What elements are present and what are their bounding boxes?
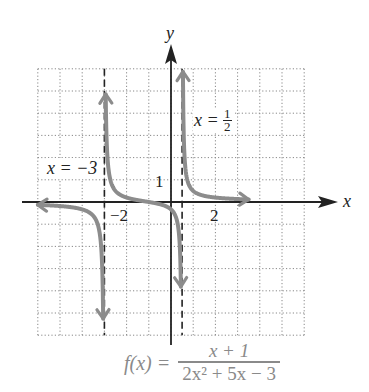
graph-canvas bbox=[0, 0, 369, 392]
fraction-one-half: 1 2 bbox=[223, 108, 232, 133]
asymptote-label-text: x = −3 bbox=[47, 158, 97, 179]
formula-numerator: x + 1 bbox=[205, 341, 253, 361]
asymptote-label-lhs: x = bbox=[194, 110, 219, 131]
y-tick-label-1: 1 bbox=[155, 173, 164, 190]
formula-lhs: f(x) = bbox=[124, 352, 170, 375]
formula-denominator: 2x² + 5x − 3 bbox=[178, 363, 280, 385]
x-axis-label: x bbox=[343, 192, 351, 210]
asymptote-label-x-half: x = 1 2 bbox=[193, 108, 233, 133]
asymptote-label-x-neg3: x = −3 bbox=[46, 158, 98, 179]
x-tick-label-neg2: −2 bbox=[110, 207, 128, 224]
function-formula: f(x) = x + 1 2x² + 5x − 3 bbox=[124, 341, 280, 385]
fraction-denominator: 2 bbox=[224, 121, 231, 133]
axes bbox=[22, 44, 338, 345]
formula-fraction: x + 1 2x² + 5x − 3 bbox=[178, 341, 280, 385]
y-axis-label: y bbox=[166, 24, 174, 42]
x-tick-label-2: 2 bbox=[210, 207, 219, 224]
